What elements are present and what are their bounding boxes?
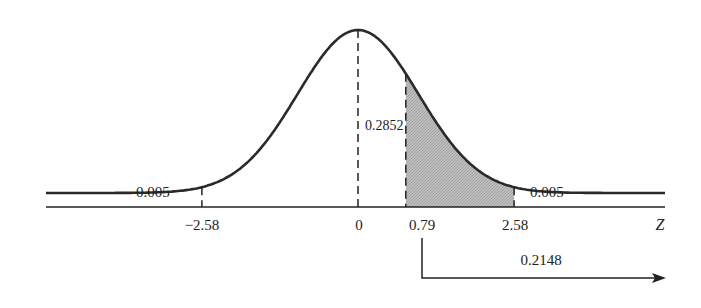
tick-label-258: 2.58 [502, 217, 528, 233]
shaded-area-079-to-258 [406, 74, 514, 207]
left-tail-label: 0.005 [136, 184, 170, 200]
center-area-label: 0.2852 [365, 118, 404, 133]
tick-label-079: 0.79 [409, 217, 435, 233]
arrow-area-label: 0.2148 [520, 252, 561, 268]
tick-label-0: 0 [355, 217, 363, 233]
right-tail-label: 0.005 [530, 184, 564, 200]
tick-label-neg258: −2.58 [185, 217, 220, 233]
axis-label-z: Z [656, 216, 666, 233]
normal-distribution-figure: 0.005 0.2852 0.005 −2.58 0 0.79 2.58 Z 0… [0, 0, 701, 308]
normal-curve [46, 30, 665, 193]
